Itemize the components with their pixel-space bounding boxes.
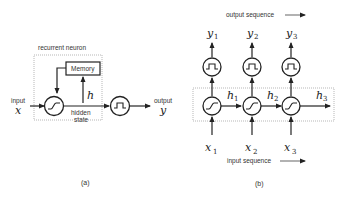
- h2-sub: 2: [274, 95, 278, 103]
- y1-sub: 1: [214, 33, 218, 41]
- x1-sub: 1: [213, 148, 217, 156]
- x2-sub: 2: [253, 148, 257, 156]
- y3-sub: 3: [293, 33, 297, 41]
- input-var: x: [15, 104, 22, 117]
- x2-var: x: [245, 141, 252, 154]
- hidden-label: hidden: [71, 109, 91, 116]
- tanh-neuron-icon: [282, 97, 300, 115]
- y2-sub: 2: [254, 33, 258, 41]
- x1-var: x: [205, 141, 212, 154]
- caption-b: (b): [255, 180, 264, 188]
- memory-label: Memory: [71, 65, 95, 73]
- state-label: state: [74, 116, 88, 123]
- x3-var: x: [284, 141, 291, 154]
- output-neuron-icon: [243, 58, 261, 76]
- rnn-diagram: recurrent neuron Memory input x h hidden…: [0, 0, 347, 203]
- y1-var: y: [206, 27, 214, 40]
- panel-a: recurrent neuron Memory input x h hidden…: [11, 44, 172, 187]
- y3-var: y: [285, 27, 293, 40]
- hidden-var: h: [87, 89, 94, 102]
- input-sequence-label: input sequence: [227, 157, 271, 165]
- tanh-neuron-icon: [45, 97, 64, 116]
- caption-a: (a): [81, 179, 90, 187]
- memory-feedback-arrow: [57, 68, 66, 93]
- h3-sub: 3: [323, 95, 327, 103]
- time-step-1: y 1 x 1 h 1: [203, 27, 241, 156]
- tanh-neuron-icon: [203, 97, 221, 115]
- y2-var: y: [246, 27, 254, 40]
- output-neuron-icon: [203, 58, 221, 76]
- output-var: y: [159, 104, 167, 117]
- h1-sub: 1: [234, 95, 238, 103]
- time-step-2: y 2 x 2 h 2: [243, 27, 281, 156]
- time-step-3: y 3 x 3 h 3: [282, 27, 330, 156]
- panel-b: output sequence y 1 x 1 h 1: [193, 11, 334, 188]
- output-sequence-label: output sequence: [226, 11, 274, 19]
- output-neuron-icon: [111, 97, 130, 116]
- tanh-neuron-icon: [243, 97, 261, 115]
- x3-sub: 3: [292, 148, 296, 156]
- recurrent-neuron-label: recurrent neuron: [38, 44, 86, 51]
- output-neuron-icon: [282, 58, 300, 76]
